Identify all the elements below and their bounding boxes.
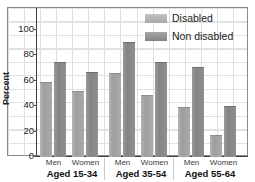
bar-disabled [109,73,121,157]
bar-disabled [141,95,153,157]
y-tick-mark [34,131,37,132]
bar-non-disabled [54,62,66,157]
group-separator [104,158,105,180]
x-category-label: Women [66,157,105,168]
bar-disabled [178,107,190,157]
y-tick-label: 100 [13,24,34,34]
bar-chart-figure: Percent 020406080100 MenWomenMenWomenMen… [0,0,255,182]
y-tick-label: 20 [13,126,34,136]
x-category-label: Women [135,157,174,168]
group-separator [173,158,174,180]
x-category-label: Women [204,157,243,168]
y-tick-mark [34,29,37,30]
bar-disabled [72,91,84,157]
bar-non-disabled [155,62,167,157]
y-tick-mark [34,54,37,55]
non-disabled-swatch-icon [145,32,167,41]
legend-item-disabled: Disabled [145,12,249,26]
bar-non-disabled [86,72,98,157]
bar-pair [71,17,100,157]
bar-non-disabled [123,42,135,157]
bar-pair [108,17,137,157]
chart-legend: Disabled Non disabled [145,12,249,46]
cropped-title-strip [0,0,255,4]
legend-item-non-disabled: Non disabled [145,30,249,44]
y-tick-mark [34,156,37,157]
legend-label-non-disabled: Non disabled [172,30,233,43]
y-tick-label: 40 [13,100,34,110]
y-tick-label: 80 [13,49,34,59]
y-tick-mark [34,80,37,81]
disabled-swatch-icon [145,14,167,23]
x-group-label: Aged 35-54 [102,168,180,180]
x-group-label: Aged 15-34 [33,168,111,180]
y-tick-mark [34,105,37,106]
y-axis-label: Percent [1,58,13,118]
legend-label-disabled: Disabled [172,12,213,25]
bar-disabled [40,82,52,157]
y-tick-label: 60 [13,75,34,85]
bar-pair [39,17,68,157]
bar-group [39,17,105,157]
y-axis-tick-labels: 020406080100 [13,0,34,182]
x-axis-group-labels: Aged 15-34Aged 35-54Aged 55-64 [0,168,255,181]
bar-non-disabled [224,106,236,157]
bar-non-disabled [192,67,204,157]
bar-disabled [210,135,222,157]
x-group-label: Aged 55-64 [171,168,249,180]
